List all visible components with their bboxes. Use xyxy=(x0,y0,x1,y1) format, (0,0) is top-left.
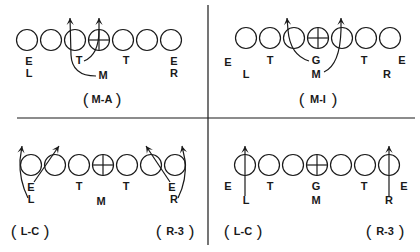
play-caption-text: L-C xyxy=(234,225,252,237)
position-label: R xyxy=(383,68,391,80)
play-caption-text: M-I xyxy=(310,93,326,105)
lineman-circle-icon xyxy=(283,155,304,176)
position-label: E xyxy=(168,181,175,193)
panel-bottom-left: ELTMTER(L-C)(R-3) xyxy=(11,146,195,241)
position-label: E xyxy=(170,55,177,67)
offensive-line xyxy=(236,28,401,49)
play-caption-text: L-C xyxy=(21,225,39,237)
position-label: T xyxy=(361,54,368,66)
play-caption: (R-3) xyxy=(366,222,405,241)
lineman-circle-icon xyxy=(45,155,66,176)
position-labels: ELTMTER xyxy=(25,54,178,81)
route-arrow-e xyxy=(34,146,59,182)
lineman-circle-icon xyxy=(332,28,353,49)
open-paren: ( xyxy=(224,222,230,241)
position-label: R xyxy=(170,67,178,79)
play-caption-text: M-A xyxy=(92,93,113,105)
position-label: T xyxy=(76,180,83,192)
position-label: T xyxy=(361,180,368,192)
play-caption: (R-3) xyxy=(156,222,195,241)
open-paren: ( xyxy=(366,222,372,241)
panel-top-right: ELTGMTRE(M-I) xyxy=(224,18,405,109)
lineman-circle-icon xyxy=(137,30,158,51)
diagram-canvas: ELTMTER(M-A)ELTGMTRE(M-I)ELTMTER(L-C)(R-… xyxy=(0,0,420,252)
open-paren: ( xyxy=(299,90,305,109)
lineman-circle-icon xyxy=(17,30,38,51)
lineman-circle-icon xyxy=(356,28,377,49)
panel-top-left: ELTMTER(M-A) xyxy=(17,18,182,109)
open-paren: ( xyxy=(11,222,17,241)
play-caption-text: R-3 xyxy=(166,225,184,237)
lineman-circle-icon xyxy=(380,28,401,49)
quadrant-dividers xyxy=(17,5,415,245)
play-caption: (M-A) xyxy=(83,90,122,109)
routes xyxy=(67,18,103,76)
position-label: L xyxy=(26,67,33,79)
position-label: R xyxy=(170,193,178,205)
panel-bottom-right: ELTGMTRE(L-C)(R-3) xyxy=(224,146,408,241)
lineman-circle-icon xyxy=(69,155,90,176)
position-label: E xyxy=(400,180,407,192)
position-label: R xyxy=(385,194,393,206)
close-paren: ) xyxy=(257,222,263,241)
position-label: G xyxy=(312,54,321,66)
play-caption: (M-I) xyxy=(299,90,338,109)
position-label: T xyxy=(123,180,130,192)
lineman-circle-icon xyxy=(331,155,352,176)
position-label: L xyxy=(243,194,250,206)
open-paren: ( xyxy=(83,90,89,109)
lineman-circle-icon xyxy=(41,30,62,51)
route-arrow-g xyxy=(287,18,309,61)
position-label: T xyxy=(76,54,83,66)
lineman-circle-icon xyxy=(284,28,305,49)
close-paren: ) xyxy=(116,90,122,109)
lineman-circle-icon xyxy=(165,155,186,176)
lineman-circle-icon xyxy=(117,155,138,176)
position-label: T xyxy=(267,180,274,192)
routes xyxy=(17,146,187,198)
play-caption: (L-C) xyxy=(224,222,263,241)
position-label: M xyxy=(311,68,320,80)
close-paren: ) xyxy=(332,90,338,109)
offensive-line xyxy=(235,155,400,176)
arrowhead-icon xyxy=(52,146,59,154)
position-label: M xyxy=(96,195,105,207)
lineman-circle-icon xyxy=(260,28,281,49)
position-label: M xyxy=(311,194,320,206)
position-label: E xyxy=(398,54,405,66)
position-label: E xyxy=(224,56,231,68)
play-diagram-figure: ELTMTER(M-A)ELTGMTRE(M-I)ELTMTER(L-C)(R-… xyxy=(0,0,420,252)
arrowhead-icon xyxy=(146,146,153,154)
close-paren: ) xyxy=(399,222,405,241)
route-arrow-r xyxy=(178,146,185,198)
lineman-circle-icon xyxy=(161,30,182,51)
position-label: E xyxy=(224,180,231,192)
position-label: T xyxy=(123,54,130,66)
position-label: G xyxy=(312,180,321,192)
position-label: M xyxy=(98,69,107,81)
position-label: E xyxy=(27,181,34,193)
close-paren: ) xyxy=(189,222,195,241)
lineman-circle-icon xyxy=(113,30,134,51)
lineman-circle-icon xyxy=(355,155,376,176)
route-arrow-e-right xyxy=(146,146,170,182)
lineman-circle-icon xyxy=(259,155,280,176)
position-label: L xyxy=(243,68,250,80)
play-panels: ELTMTER(M-A)ELTGMTRE(M-I)ELTMTER(L-C)(R-… xyxy=(11,18,408,241)
position-labels: ELTGMTRE xyxy=(224,180,407,206)
play-caption-text: R-3 xyxy=(376,225,394,237)
position-labels: ELTGMTRE xyxy=(224,54,405,80)
open-paren: ( xyxy=(156,222,162,241)
lineman-circle-icon xyxy=(65,30,86,51)
position-label: E xyxy=(25,55,32,67)
close-paren: ) xyxy=(44,222,50,241)
play-caption: (L-C) xyxy=(11,222,50,241)
lineman-circle-icon xyxy=(21,155,42,176)
position-labels: ELTMTER xyxy=(27,180,178,207)
position-label: L xyxy=(28,193,35,205)
lineman-circle-icon xyxy=(236,28,257,49)
position-label: T xyxy=(267,54,274,66)
